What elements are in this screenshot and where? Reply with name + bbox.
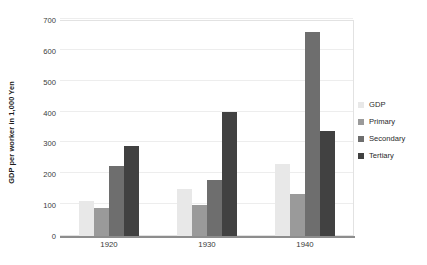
legend-swatch-icon [358, 136, 364, 142]
bar [79, 201, 94, 236]
y-tick-label: 700 [43, 16, 56, 25]
y-tick-label: 200 [43, 170, 56, 179]
x-tick-label: 1940 [296, 240, 313, 249]
legend-label: Primary [369, 117, 395, 126]
bars-layer [60, 20, 354, 236]
bar [275, 164, 290, 236]
gridline [60, 18, 353, 19]
legend-label: Secondary [369, 134, 405, 143]
y-tick-label: 600 [43, 46, 56, 55]
bar [94, 208, 109, 236]
bar [124, 146, 139, 236]
x-axis-line [60, 236, 355, 238]
x-tick-label: 1930 [198, 240, 215, 249]
y-tick-label: 0 [52, 232, 56, 241]
legend-item[interactable]: Secondary [358, 130, 424, 147]
bar [320, 131, 335, 236]
y-axis-tick-labels: 0100200300400500600700 [20, 20, 56, 236]
bar [290, 194, 305, 236]
y-tick-label: 400 [43, 108, 56, 117]
bar-group [177, 20, 238, 236]
bar [109, 166, 124, 236]
legend-label: GDP [369, 100, 385, 109]
legend-label: Tertiary [369, 151, 394, 160]
legend-swatch-icon [358, 119, 364, 125]
y-tick-label: 500 [43, 77, 56, 86]
y-tick-label: 100 [43, 201, 56, 210]
legend-item[interactable]: GDP [358, 96, 424, 113]
bar [222, 112, 237, 236]
legend-item[interactable]: Primary [358, 113, 424, 130]
x-tick-label: 1920 [100, 240, 117, 249]
y-tick-label: 300 [43, 139, 56, 148]
bar-group [79, 20, 140, 236]
legend-item[interactable]: Tertiary [358, 147, 424, 164]
bar [305, 32, 320, 236]
chart-legend: GDPPrimarySecondaryTertiary [358, 96, 424, 164]
bar [177, 189, 192, 236]
bar [207, 180, 222, 236]
bar-group [275, 20, 336, 236]
x-axis-tick-labels: 192019301940 [60, 240, 354, 256]
legend-swatch-icon [358, 102, 364, 108]
y-axis-title: GDP per worker in 1,000 Yen [0, 0, 22, 265]
bar [192, 205, 207, 236]
bar-chart-figure: GDP per worker in 1,000 Yen 010020030040… [0, 0, 427, 265]
legend-swatch-icon [358, 153, 364, 159]
